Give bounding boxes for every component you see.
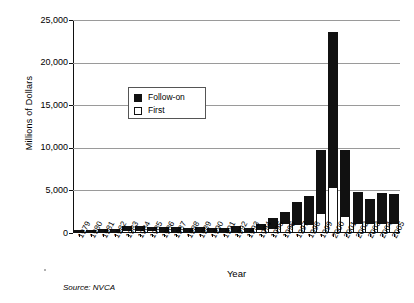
y-tick-label: 20,000 — [24, 58, 68, 67]
bar-segment-follow-on[interactable] — [353, 192, 363, 223]
y-tick-label: 10,000 — [24, 143, 68, 152]
legend-swatch-first — [134, 107, 142, 115]
legend-label-follow-on: Follow-on — [148, 93, 185, 102]
bar-segment-follow-on[interactable] — [292, 202, 302, 223]
chart-legend: Follow-on First — [128, 87, 206, 119]
source-note: Source: NVCA — [63, 283, 115, 292]
bar-segment-follow-on[interactable] — [377, 193, 387, 223]
y-tick-label: 5,000 — [24, 186, 68, 195]
legend-item-first: First — [134, 104, 205, 117]
chart-figure: Millions of Dollars 05,00010,00015,00020… — [0, 0, 414, 303]
y-tick-label: 0 — [24, 229, 68, 238]
y-tick-label: 15,000 — [24, 101, 68, 110]
scan-speck — [44, 269, 46, 271]
y-tick-label: 25,000 — [24, 16, 68, 25]
legend-item-follow-on: Follow-on — [134, 91, 205, 104]
bar-segment-follow-on[interactable] — [304, 196, 314, 223]
x-axis-ticks: 1979198019811982198319841985198619871988… — [73, 234, 400, 270]
bar-segment-follow-on[interactable] — [316, 150, 326, 213]
legend-swatch-follow-on — [134, 94, 142, 102]
bar-series-layer — [73, 20, 400, 233]
bar-segment-follow-on[interactable] — [389, 194, 399, 223]
bar-segment-follow-on[interactable] — [340, 150, 350, 216]
legend-label-first: First — [148, 106, 165, 115]
bar-segment-follow-on[interactable] — [328, 32, 338, 187]
x-axis-title: Year — [73, 268, 400, 279]
